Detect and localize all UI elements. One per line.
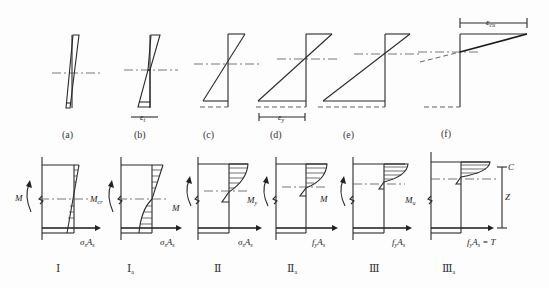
strain-diagram-c: (c) xyxy=(194,34,260,141)
strain-diagram-f: εcu (f) xyxy=(418,17,527,140)
compression-label: C xyxy=(508,162,515,172)
stage-label-2: Ⅱ xyxy=(214,262,221,274)
mu-label: Mu xyxy=(404,195,416,206)
force-label: σsAs xyxy=(238,237,253,248)
strain-diagram-d: εy (d) xyxy=(256,34,340,141)
moment-arrow-icon xyxy=(27,184,31,212)
stress-diagram-stage-2a: fyAs Ⅱa xyxy=(263,157,338,275)
my-label: My xyxy=(246,195,258,206)
lever-arm-label: Z xyxy=(505,192,511,202)
stage-label-3: Ⅲ xyxy=(369,262,380,274)
stage-label-3a: Ⅲa xyxy=(442,262,456,275)
force-label: fyAs xyxy=(312,237,326,248)
force-label: σsAs xyxy=(160,237,175,248)
epsilon-t-label: εt xyxy=(140,112,146,123)
stage-label-2a: Ⅱa xyxy=(287,262,297,275)
stage-label-1: Ⅰ xyxy=(56,262,60,274)
label-f: (f) xyxy=(441,128,451,140)
strain-diagram-a: (a) xyxy=(52,35,100,141)
label-b: (b) xyxy=(134,129,146,141)
strain-diagram-b: εt (b) xyxy=(124,35,178,141)
stress-diagram-stage-2: M σsAs My Ⅱ xyxy=(171,157,262,274)
stress-diagram-stage-3: M fyAs Mu Ⅲ xyxy=(319,157,416,274)
stage-label-1a: Ⅰa xyxy=(127,262,134,275)
stress-diagram-stage-1a: σsAs Ⅰa xyxy=(108,157,182,275)
label-e: (e) xyxy=(343,129,354,141)
moment-label: M xyxy=(14,193,23,203)
beam-stages-diagram: (a) εt (b) (c) εy (d) xyxy=(0,0,549,288)
label-a: (a) xyxy=(62,129,73,141)
label-c: (c) xyxy=(203,129,214,141)
stress-diagram-stage-3a: C Z fyAs = T Ⅲa xyxy=(428,152,515,275)
epsilon-cu-label: εcu xyxy=(486,17,495,28)
moment-label: M xyxy=(171,203,180,213)
moment-label: M xyxy=(319,194,328,204)
force-label: σsAs xyxy=(80,237,95,248)
force-label-T: fyAs = T xyxy=(467,237,497,248)
mcr-label: Mcr xyxy=(89,194,103,205)
stress-diagram-stage-1: M Mcr σsAs Ⅰ xyxy=(14,157,103,274)
label-d: (d) xyxy=(270,129,282,141)
epsilon-y-label: εy xyxy=(278,112,285,123)
strain-diagram-e: (e) xyxy=(318,34,420,141)
force-label: fyAs xyxy=(392,237,406,248)
